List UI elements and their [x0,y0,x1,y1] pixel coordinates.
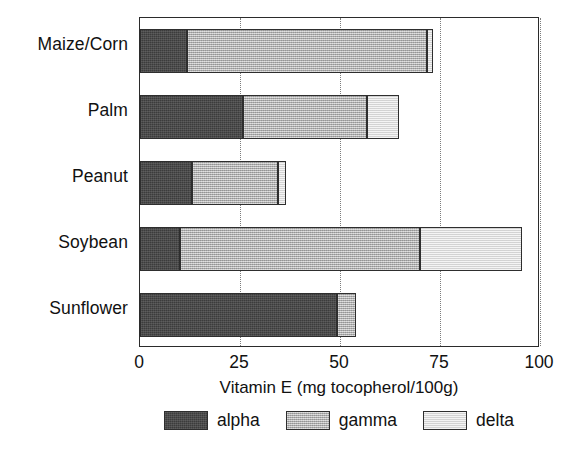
x-tick-label: 50 [329,352,348,373]
figure: Maize/Corn Palm Peanut Soybean Sunflower… [0,0,573,465]
bar-segment-gamma[interactable] [243,95,367,139]
bar-segment-gamma[interactable] [187,29,427,73]
bar-segment-alpha[interactable] [140,293,337,337]
legend-item-alpha[interactable]: alpha [164,410,260,431]
bar-segment-delta[interactable] [278,161,286,205]
bar-row[interactable] [140,161,540,205]
bar-segment-gamma[interactable] [337,293,356,337]
bar-segment-delta[interactable] [420,227,522,271]
legend-label: alpha [217,410,260,431]
category-label-text: Palm [0,100,128,121]
x-tick-label: 0 [134,352,144,373]
legend: alphagammadelta [139,410,539,431]
bar-row[interactable] [140,95,540,139]
x-tick-label: 75 [429,352,448,373]
bar-segment-delta[interactable] [427,29,433,73]
category-label-text: Maize/Corn [0,34,128,55]
category-label-text: Soybean [0,232,128,253]
x-tick-label: 100 [524,352,553,373]
figure-caption [22,452,562,465]
plot-area [139,17,539,347]
bar-row[interactable] [140,29,540,73]
bar-row[interactable] [140,293,540,337]
bar-segment-delta[interactable] [367,95,399,139]
legend-swatch-gamma [286,411,330,430]
bar-row[interactable] [140,227,540,271]
x-tick-label: 25 [229,352,248,373]
bar-segment-alpha[interactable] [140,227,180,271]
legend-item-gamma[interactable]: gamma [286,410,397,431]
legend-label: delta [476,410,514,431]
bar-segment-gamma[interactable] [180,227,420,271]
bar-segment-gamma[interactable] [192,161,278,205]
gridline [540,18,541,346]
bar-segment-alpha[interactable] [140,29,187,73]
category-label-text: Sunflower [0,298,128,319]
bar-segment-alpha[interactable] [140,161,192,205]
legend-item-delta[interactable]: delta [423,410,514,431]
legend-swatch-delta [423,411,467,430]
bar-segment-alpha[interactable] [140,95,243,139]
legend-label: gamma [339,410,397,431]
x-axis-label: Vitamin E (mg tocopherol/100g) [139,378,539,398]
legend-swatch-alpha [164,411,208,430]
category-label-text: Peanut [0,166,128,187]
